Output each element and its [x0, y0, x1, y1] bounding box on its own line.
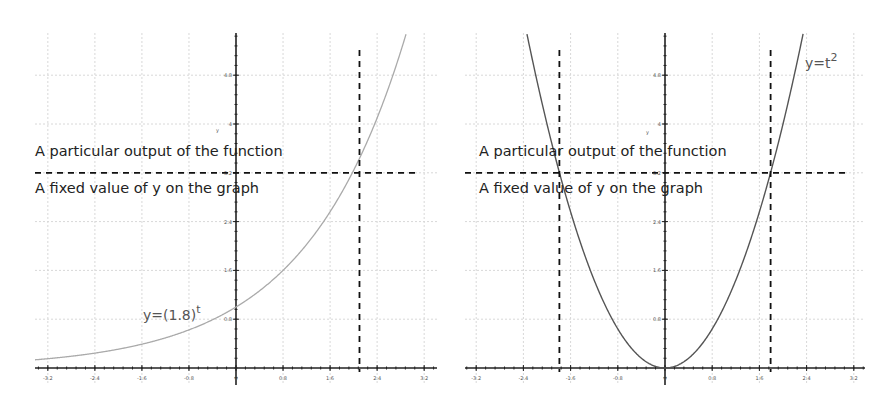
- y-tick-label: 1.6: [224, 267, 232, 273]
- y-tick-label: 0.8: [653, 316, 661, 322]
- x-tick-label: -3.2: [43, 375, 53, 381]
- x-tick-label: 2.4: [803, 375, 811, 381]
- x-tick-label: -2.4: [519, 375, 529, 381]
- x-tick-label: 1.6: [755, 375, 763, 381]
- x-tick-label: 3.2: [420, 375, 428, 381]
- y-tick-label: 2.4: [224, 219, 232, 225]
- right-chart-quadratic: -3.2-2.4-1.6-0.800.81.62.43.20.81.62.43.…: [465, 33, 865, 385]
- x-tick-label: -0.8: [613, 375, 623, 381]
- x-tick-label: 0: [234, 375, 237, 381]
- y-tick-label: 4.8: [224, 72, 232, 78]
- right-axes: -3.2-2.4-1.6-0.800.81.62.43.20.81.62.43.…: [465, 33, 865, 385]
- y-tick-label: 4: [229, 121, 232, 127]
- y-tick-label: 4.8: [653, 72, 661, 78]
- x-tick-label: -2.4: [90, 375, 100, 381]
- x-tick-label: -3.2: [471, 375, 481, 381]
- left-chart-exponential: -3.2-2.4-1.6-0.800.81.62.43.20.81.62.43.…: [35, 33, 437, 385]
- left-annotation-fixed-value: A fixed value of y on the graph: [35, 180, 259, 196]
- x-tick-label: 3.2: [850, 375, 858, 381]
- right-function-label: y=t2: [805, 51, 838, 71]
- right-dashed-lines: [465, 50, 845, 372]
- left-function-label: y=(1.8)t: [143, 303, 201, 323]
- x-tick-label: 1.6: [326, 375, 334, 381]
- x-tick-label: -1.6: [137, 375, 147, 381]
- right-y-axis-label: y: [646, 129, 649, 136]
- y-tick-label: 0.8: [224, 316, 232, 322]
- exponential-curve: [35, 34, 406, 360]
- y-tick-label: 2.4: [653, 219, 661, 225]
- x-tick-label: -1.6: [566, 375, 576, 381]
- x-tick-label: 0.8: [279, 375, 287, 381]
- x-tick-label: -0.8: [184, 375, 194, 381]
- y-tick-label: 4: [658, 121, 661, 127]
- x-tick-label: 0: [663, 375, 666, 381]
- left-y-axis-label: y: [216, 127, 219, 134]
- left-dashed-lines: [35, 50, 417, 372]
- right-annotation-fixed-value: A fixed value of y on the graph: [479, 180, 703, 196]
- x-tick-label: 2.4: [373, 375, 381, 381]
- x-tick-label: 0.8: [708, 375, 716, 381]
- right-annotation-particular-output: A particular output of the function: [479, 143, 727, 159]
- charts-canvas: -3.2-2.4-1.6-0.800.81.62.43.20.81.62.43.…: [0, 0, 889, 405]
- y-tick-label: 1.6: [653, 267, 661, 273]
- left-annotation-particular-output: A particular output of the function: [35, 143, 283, 159]
